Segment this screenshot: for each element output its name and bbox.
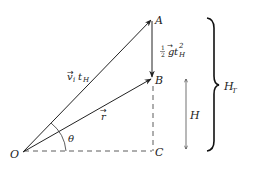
svg-text:H: H (178, 51, 186, 59)
label-vi-tH: → v i t H (67, 68, 90, 84)
point-label-a: A (154, 14, 163, 27)
angle-label-theta: θ (68, 133, 74, 144)
point-label-b: B (154, 74, 163, 87)
svg-text:2: 2 (161, 51, 165, 58)
projectile-diagram: A B C O → v i t H → r 1 2 → g t 2 H θ H … (0, 0, 258, 180)
label-half-g-tH2: 1 2 → g t 2 H (160, 42, 186, 59)
svg-text:1: 1 (161, 44, 165, 51)
svg-text:2: 2 (178, 42, 184, 50)
vector-r (23, 79, 151, 152)
angle-arc-theta (51, 123, 66, 151)
brace-total-height (207, 18, 219, 151)
label-r: → r (100, 106, 107, 122)
vector-vi-tH (23, 20, 151, 152)
point-label-c: C (155, 146, 164, 159)
svg-text:i: i (73, 76, 75, 84)
svg-text:H: H (82, 76, 90, 84)
point-label-o: O (10, 148, 19, 161)
label-total-height: H T (223, 80, 238, 95)
svg-text:T: T (232, 87, 238, 95)
height-label-h: H (189, 109, 200, 122)
